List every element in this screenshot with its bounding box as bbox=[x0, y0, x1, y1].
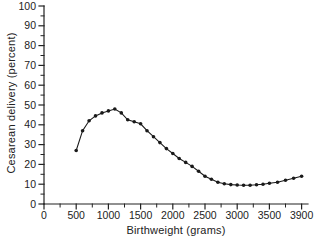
data-point bbox=[197, 170, 201, 174]
data-point bbox=[284, 178, 288, 182]
y-tick-label: 20 bbox=[24, 158, 36, 170]
x-tick-label: 1500 bbox=[129, 209, 153, 221]
data-point bbox=[292, 177, 296, 181]
x-tick-label: 3000 bbox=[226, 209, 250, 221]
data-point bbox=[158, 141, 162, 145]
x-tick-label: 0 bbox=[41, 209, 47, 221]
y-tick-label: 40 bbox=[24, 118, 36, 130]
y-tick-label: 90 bbox=[24, 19, 36, 31]
data-point bbox=[235, 183, 239, 187]
chart-canvas: 0102030405060708090100050010001500200025… bbox=[0, 0, 321, 248]
data-point bbox=[113, 107, 117, 111]
data-point bbox=[120, 111, 124, 115]
data-point bbox=[74, 149, 78, 153]
data-point bbox=[184, 161, 188, 165]
y-tick-label: 10 bbox=[24, 178, 36, 190]
data-line bbox=[76, 109, 301, 185]
data-point bbox=[255, 183, 259, 187]
y-tick-label: 70 bbox=[24, 59, 36, 71]
y-axis-label: Cesarean delivery (percent) bbox=[5, 3, 17, 203]
data-point bbox=[132, 120, 136, 124]
data-point bbox=[190, 165, 194, 169]
y-tick-label: 100 bbox=[18, 0, 36, 12]
data-point bbox=[300, 175, 304, 179]
data-point bbox=[268, 181, 272, 185]
y-tick-label: 80 bbox=[24, 39, 36, 51]
data-point bbox=[248, 183, 252, 187]
data-point bbox=[216, 180, 220, 184]
data-point bbox=[81, 129, 85, 133]
data-point bbox=[261, 182, 265, 186]
data-point bbox=[107, 109, 111, 113]
data-point bbox=[145, 129, 149, 133]
x-tick-label: 2500 bbox=[193, 209, 217, 221]
data-point bbox=[210, 178, 214, 182]
x-axis-label: Birthweight (grams) bbox=[44, 224, 308, 236]
data-point bbox=[87, 119, 91, 123]
data-point bbox=[276, 180, 280, 184]
x-tick-label: 1000 bbox=[97, 209, 121, 221]
cesarean-birthweight-chart: 0102030405060708090100050010001500200025… bbox=[0, 0, 321, 248]
x-tick-label: 500 bbox=[67, 209, 85, 221]
data-point bbox=[223, 182, 227, 186]
data-point bbox=[171, 152, 175, 156]
y-tick-label: 0 bbox=[30, 198, 36, 210]
x-tick-label: 2000 bbox=[161, 209, 185, 221]
data-point bbox=[94, 114, 98, 118]
data-point bbox=[203, 175, 207, 179]
y-tick-label: 60 bbox=[24, 79, 36, 91]
data-point bbox=[139, 122, 143, 126]
data-point bbox=[152, 135, 156, 139]
data-point bbox=[165, 147, 169, 151]
data-point bbox=[229, 183, 233, 187]
data-point bbox=[126, 118, 130, 122]
data-point bbox=[242, 183, 246, 187]
data-point bbox=[100, 111, 104, 115]
data-point bbox=[177, 157, 181, 161]
y-tick-label: 50 bbox=[24, 99, 36, 111]
y-tick-label: 30 bbox=[24, 138, 36, 150]
x-tick-label: 3500 bbox=[258, 209, 282, 221]
x-tick-label: 3900 bbox=[290, 209, 314, 221]
